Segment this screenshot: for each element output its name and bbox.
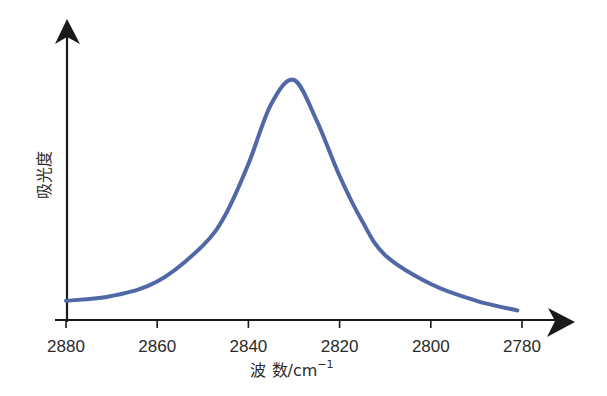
x-axis-title-main: 波 数/cm xyxy=(250,361,317,380)
absorbance-curve xyxy=(66,80,517,311)
x-tick-label: 2880 xyxy=(47,337,85,356)
x-tick-label: 2820 xyxy=(321,337,359,356)
y-axis-title: 吸光度 xyxy=(35,151,54,199)
x-axis-ticks: 288028602840282028002780 xyxy=(47,320,541,356)
x-axis-title-superscript: −1 xyxy=(317,358,333,371)
x-tick-label: 2860 xyxy=(138,337,176,356)
x-tick-label: 2840 xyxy=(229,337,267,356)
ir-spectrum-chart: 288028602840282028002780 吸光度 波 数/cm−1 xyxy=(0,0,607,396)
x-axis-arrow-icon xyxy=(547,308,575,337)
x-axis-title: 波 数/cm−1 xyxy=(250,358,333,380)
x-tick-label: 2800 xyxy=(412,337,450,356)
x-tick-label: 2780 xyxy=(503,337,541,356)
